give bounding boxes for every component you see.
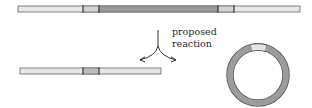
diagram: proposed reaction — [0, 0, 312, 108]
reaction-label-line1: proposed — [172, 26, 217, 37]
reaction-arrow-icon — [140, 30, 176, 62]
bottom-linear-dna — [20, 67, 161, 75]
top-linear-dna — [18, 5, 300, 13]
reaction-label-line2: reaction — [172, 38, 212, 49]
circular-dna — [230, 47, 286, 103]
diagram-canvas — [0, 0, 312, 108]
